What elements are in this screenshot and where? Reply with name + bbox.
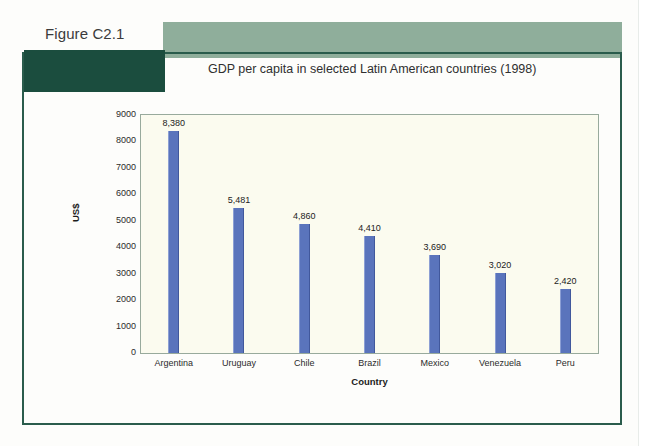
y-axis-tick-label: 1000 xyxy=(94,321,136,330)
bar-slot: 3,690 xyxy=(402,115,467,353)
bar-value-label: 4,410 xyxy=(358,223,381,233)
y-axis-ticks: 9000800070006000500040003000200010000 xyxy=(90,114,136,354)
x-axis-tick-label: Brazil xyxy=(337,358,402,368)
bar xyxy=(168,131,179,353)
bar-slot: 4,860 xyxy=(272,115,337,353)
y-axis-tick-label: 4000 xyxy=(94,242,136,251)
bar-slot: 2,420 xyxy=(533,115,598,353)
x-axis-tick-label: Chile xyxy=(272,358,337,368)
bar-slot: 3,020 xyxy=(467,115,532,353)
y-axis-title: US$ xyxy=(70,204,81,222)
bar xyxy=(429,255,440,353)
bar-value-label: 4,860 xyxy=(293,211,316,221)
x-axis-tick-label: Venezuela xyxy=(467,358,532,368)
x-axis-ticks: ArgentinaUruguayChileBrazilMexicoVenezue… xyxy=(141,358,598,368)
figure-label: Figure C2.1 xyxy=(45,25,124,42)
bar-value-label: 3,020 xyxy=(489,260,512,270)
bar-value-label: 2,420 xyxy=(554,276,577,286)
bar xyxy=(299,224,310,353)
bar xyxy=(560,289,571,353)
y-axis-tick-label: 5000 xyxy=(94,215,136,224)
x-axis-tick-label: Peru xyxy=(533,358,598,368)
y-axis-tick-label: 9000 xyxy=(94,110,136,119)
bar-slot: 5,481 xyxy=(206,115,271,353)
bar xyxy=(364,236,375,353)
bar-series: 8,3805,4814,8604,4103,6903,0202,420 xyxy=(141,115,598,353)
header-band-light xyxy=(163,22,622,58)
bar-chart: US$ 900080007000600050004000300020001000… xyxy=(22,92,622,425)
y-axis-tick-label: 8000 xyxy=(94,136,136,145)
x-axis-title: Country xyxy=(140,376,599,387)
bar xyxy=(495,273,506,353)
bar-value-label: 8,380 xyxy=(162,118,185,128)
y-axis-tick-label: 6000 xyxy=(94,189,136,198)
y-axis-tick-label: 3000 xyxy=(94,268,136,277)
bar-value-label: 3,690 xyxy=(424,242,447,252)
y-axis-tick-label: 7000 xyxy=(94,162,136,171)
x-axis-tick-label: Uruguay xyxy=(206,358,271,368)
bar-slot: 4,410 xyxy=(337,115,402,353)
bar-value-label: 5,481 xyxy=(228,195,251,205)
scanned-page: Figure C2.1 GDP per capita in selected L… xyxy=(0,0,653,446)
bar-slot: 8,380 xyxy=(141,115,206,353)
bar xyxy=(233,208,244,353)
page-right-margin xyxy=(638,0,653,446)
y-axis-tick-label: 0 xyxy=(94,348,136,357)
x-axis-tick-label: Argentina xyxy=(141,358,206,368)
chart-title: GDP per capita in selected Latin America… xyxy=(208,62,536,76)
x-axis-tick-label: Mexico xyxy=(402,358,467,368)
y-axis-tick-label: 2000 xyxy=(94,295,136,304)
figure-frame-mask xyxy=(24,50,165,92)
